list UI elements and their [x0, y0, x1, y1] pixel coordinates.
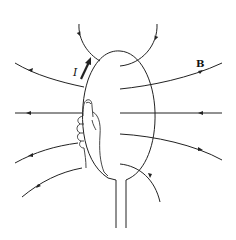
- field-label: B: [196, 58, 204, 69]
- field-line-top-right: [120, 24, 158, 66]
- current-loop: [83, 51, 156, 178]
- current-label: I: [72, 66, 78, 79]
- field-line-right-3: [120, 134, 222, 160]
- field-line-right-2: [120, 111, 222, 115]
- diagram-canvas: I B: [0, 0, 236, 240]
- field-line-left-2: [15, 111, 83, 115]
- field-line-top-left: [77, 24, 100, 61]
- magnetic-loop-diagram: I B: [0, 0, 236, 240]
- lead-wires: [108, 178, 130, 228]
- field-line-left-3: [15, 143, 78, 163]
- right-hand: [77, 100, 108, 176]
- field-line-left-4: [22, 168, 82, 197]
- field-line-right-1: [120, 63, 222, 89]
